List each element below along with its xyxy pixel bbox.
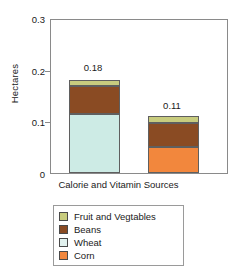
y-tick-label-1: 0.2 (5, 66, 45, 77)
y-tick-label-2: 0.1 (5, 117, 45, 128)
legend-item-fruit-and-vegtables[interactable]: Fruit and Vegtables (59, 210, 183, 223)
legend-label: Fruit and Vegtables (74, 211, 156, 222)
bar-segment-fruit-and-vegtables (148, 116, 199, 123)
bar-segment-beans (148, 123, 199, 147)
stacked-bar-chart: Hectares 0.3 0.2 0.1 0 0.18 0.11 Calorie… (0, 0, 237, 275)
bar-segment-corn (148, 147, 199, 173)
plot-area (50, 19, 228, 174)
bar-segment-beans (69, 86, 120, 113)
legend-item-corn[interactable]: Corn (59, 249, 183, 262)
bar-total-label-1: 0.18 (43, 62, 143, 73)
bar-series-2[interactable] (148, 18, 199, 173)
legend-label: Beans (74, 224, 101, 235)
legend-swatch-icon (59, 225, 68, 234)
y-tick-label-0: 0.3 (5, 14, 45, 25)
bar-segment-wheat (69, 114, 120, 173)
legend-item-wheat[interactable]: Wheat (59, 236, 183, 249)
legend-swatch-icon (59, 212, 68, 221)
legend-item-beans[interactable]: Beans (59, 223, 183, 236)
bar-total-label-2: 0.11 (122, 100, 222, 111)
legend-label: Corn (74, 250, 95, 261)
legend-swatch-icon (59, 251, 68, 260)
legend-label: Wheat (74, 237, 101, 248)
chart-legend: Fruit and Vegtables Beans Wheat Corn (53, 205, 184, 266)
y-axis-title: Hectares (9, 44, 20, 124)
bar-series-1[interactable] (69, 18, 120, 173)
x-axis-title: Calorie and Vitamin Sources (0, 179, 237, 190)
legend-swatch-icon (59, 238, 68, 247)
